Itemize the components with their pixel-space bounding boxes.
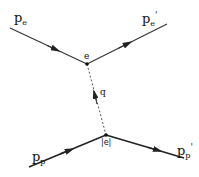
bottom-vertex-dot — [104, 133, 108, 137]
label-pe: pe — [14, 11, 27, 24]
outgoing-electron-arrow-icon — [118, 44, 128, 49]
label-vertex-top: e — [84, 52, 89, 61]
label-pe-prime: pe' — [142, 12, 158, 25]
incoming-electron-arrow-icon — [47, 46, 56, 50]
incoming-proton-arrow-icon — [60, 150, 70, 154]
photon-line — [87, 64, 106, 135]
label-pp: pp — [32, 150, 45, 163]
label-photon-q: q — [100, 88, 106, 97]
label-vertex-bottom: |e| — [101, 139, 111, 147]
top-vertex-dot — [85, 62, 89, 66]
outgoing-proton-arrow-icon — [148, 147, 158, 150]
feynman-diagram: pe pe' e q pp |e| pp' — [0, 0, 199, 177]
label-pp-prime: pp' — [177, 144, 193, 157]
outgoing-proton-line — [106, 135, 184, 158]
